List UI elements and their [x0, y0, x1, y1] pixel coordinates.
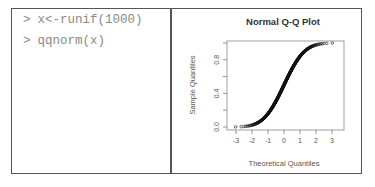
- console-line: >x<-runif(1000): [14, 10, 168, 31]
- x-axis-label: Theoretical Quantiles: [249, 159, 320, 168]
- data-point: [331, 42, 334, 45]
- y-tick-label: 0.8: [213, 55, 220, 65]
- x-tick-label: -2: [249, 137, 255, 144]
- x-tick-label: 1: [298, 137, 302, 144]
- qq-plot-chart: Normal Q-Q Plot 0.00.40.8 -3-2-10123 The…: [172, 9, 361, 173]
- console-prompt: >: [23, 34, 31, 48]
- console-code: x<-runif(1000): [38, 13, 143, 27]
- r-console-panel: >x<-runif(1000) >qqnorm(x): [14, 10, 168, 170]
- x-tick-label: 2: [314, 137, 318, 144]
- y-tick-label: 0.4: [213, 88, 220, 98]
- y-tick-label: 0.0: [213, 122, 220, 132]
- x-axis: -3-2-10123: [233, 130, 334, 144]
- y-axis: 0.00.40.8: [213, 43, 227, 132]
- console-code: qqnorm(x): [38, 34, 106, 48]
- x-tick-label: -3: [233, 137, 239, 144]
- qq-plot-panel: Normal Q-Q Plot 0.00.40.8 -3-2-10123 The…: [172, 9, 361, 173]
- x-tick-label: 0: [282, 137, 286, 144]
- data-points: [234, 42, 333, 128]
- data-point: [234, 126, 237, 129]
- plot-title: Normal Q-Q Plot: [246, 16, 321, 27]
- data-point: [325, 42, 328, 45]
- data-point: [240, 125, 243, 128]
- console-prompt: >: [23, 13, 31, 27]
- x-tick-label: 3: [330, 137, 334, 144]
- console-line: >qqnorm(x): [14, 31, 168, 52]
- y-axis-label: Sample Quantiles: [188, 55, 197, 114]
- x-tick-label: -1: [265, 137, 271, 144]
